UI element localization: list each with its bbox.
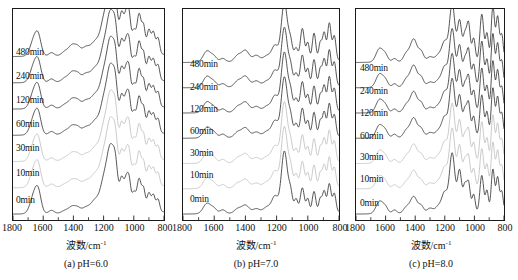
x-tick-label: 1200	[435, 222, 455, 233]
series-label-60min: 60min	[16, 119, 39, 129]
x-tick-label: 1000	[124, 222, 144, 233]
series-label-60min: 60min	[190, 126, 213, 136]
series-label-10min: 10min	[360, 174, 383, 184]
axis-title-exponent-c: -1	[446, 239, 452, 247]
spectrum-curve-240min	[356, 28, 504, 87]
x-tick-label: 1800	[172, 222, 192, 233]
panel-ph-7: 480min240min120min60min30min10min0min 18…	[170, 0, 342, 280]
x-tick-labels-a: 18001600140012001000800	[12, 222, 165, 236]
axis-ticks	[183, 216, 339, 220]
axis-title-exponent-a: -1	[101, 239, 107, 247]
axis-title-unit-b: /cm	[256, 240, 271, 251]
axis-title-text-b: 波数	[236, 240, 256, 251]
x-tick-label: 1200	[94, 222, 114, 233]
axis-title-unit-a: /cm	[86, 240, 101, 251]
x-tick-label: 1400	[405, 222, 425, 233]
series-label-240min: 240min	[360, 86, 388, 96]
spectrum-curve-0min	[183, 151, 339, 214]
x-tick-label: 1800	[345, 222, 365, 233]
figure-container: 480min240min120min60min30min10min0min 18…	[0, 0, 518, 280]
series-label-10min: 10min	[16, 168, 39, 178]
series-label-0min: 0min	[16, 195, 35, 205]
series-label-120min: 120min	[360, 108, 388, 118]
series-label-480min: 480min	[190, 59, 218, 69]
axis-title-text-a: 波数	[66, 240, 86, 251]
spectrum-curve-480min	[183, 9, 339, 62]
x-axis-title-c: 波数/cm-1	[342, 237, 518, 252]
x-tick-label: 1400	[63, 222, 83, 233]
x-axis-title-a: 波数/cm-1	[0, 237, 172, 252]
series-label-0min: 0min	[360, 198, 379, 208]
x-tick-label: 1600	[204, 222, 224, 233]
series-label-30min: 30min	[190, 148, 213, 158]
series-label-120min: 120min	[190, 104, 218, 114]
series-label-30min: 30min	[360, 152, 383, 162]
axis-ticks	[13, 216, 164, 220]
series-label-240min: 240min	[16, 71, 44, 81]
panel-caption-a: (a) pH=6.0	[0, 258, 172, 269]
series-label-480min: 480min	[360, 63, 388, 73]
x-tick-label: 1800	[2, 222, 22, 233]
x-tick-label: 1000	[298, 222, 318, 233]
x-tick-label: 1600	[33, 222, 53, 233]
x-axis-title-b: 波数/cm-1	[170, 237, 342, 252]
series-label-240min: 240min	[190, 82, 218, 92]
axis-title-exponent-b: -1	[271, 239, 277, 247]
x-tick-label: 1000	[465, 222, 485, 233]
plot-frame-b	[182, 8, 340, 221]
series-label-30min: 30min	[16, 143, 39, 153]
x-tick-label: 800	[498, 222, 513, 233]
x-tick-labels-c: 18001600140012001000800	[355, 222, 505, 236]
series-label-10min: 10min	[190, 170, 213, 180]
x-tick-label: 1400	[235, 222, 255, 233]
panel-caption-c: (c) pH=8.0	[342, 258, 518, 269]
series-label-0min: 0min	[190, 194, 209, 204]
x-tick-label: 1600	[375, 222, 395, 233]
panel-caption-b: (b) pH=7.0	[170, 258, 342, 269]
panel-ph-6: 480min240min120min60min30min10min0min 18…	[0, 0, 172, 280]
series-label-60min: 60min	[360, 131, 383, 141]
spectrum-curve-480min	[356, 9, 504, 62]
axis-ticks	[356, 216, 504, 220]
x-tick-labels-b: 18001600140012001000800	[182, 222, 340, 236]
x-tick-label: 1200	[267, 222, 287, 233]
spectra-curves-a	[13, 9, 164, 220]
plot-frame-a	[12, 8, 165, 221]
series-label-480min: 480min	[16, 47, 44, 57]
spectra-curves-b	[183, 9, 339, 220]
series-label-120min: 120min	[16, 95, 44, 105]
axis-title-unit-c: /cm	[431, 240, 446, 251]
axis-title-text-c: 波数	[411, 240, 431, 251]
panel-ph-8: 480min240min120min60min30min10min0min 18…	[340, 0, 518, 280]
